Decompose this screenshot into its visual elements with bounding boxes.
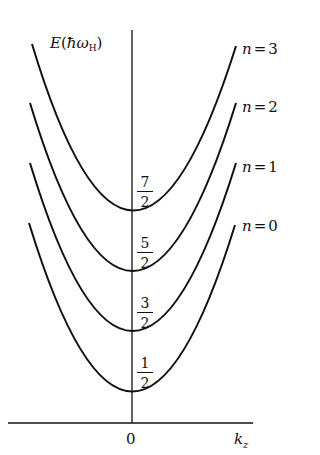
- level-label-n1: n=1: [242, 160, 278, 175]
- equals: =: [254, 217, 267, 235]
- fraction-bar: [137, 372, 153, 373]
- n-value: 1: [268, 158, 278, 176]
- n-symbol: n: [242, 158, 252, 176]
- fraction-numerator: 7: [137, 175, 153, 189]
- energy-value-n1: 32: [137, 296, 153, 330]
- k-symbol: k: [234, 430, 243, 448]
- fraction-numerator: 1: [137, 356, 153, 370]
- fraction-numerator: 5: [137, 236, 153, 250]
- fraction-denominator: 2: [137, 256, 153, 270]
- energy-symbol: E: [50, 34, 61, 52]
- hbar-omega: ħω: [67, 34, 89, 52]
- equals: =: [254, 40, 267, 58]
- fraction-bar: [137, 252, 153, 253]
- kz-axis-label: kz: [234, 432, 248, 450]
- n-symbol: n: [242, 217, 252, 235]
- energy-value-n2: 52: [137, 236, 153, 270]
- fraction-denominator: 2: [137, 316, 153, 330]
- level-label-n3: n=3: [242, 42, 278, 57]
- fraction-bar: [137, 312, 153, 313]
- x-origin-tick: 0: [126, 432, 136, 447]
- fraction-denominator: 2: [137, 376, 153, 390]
- n-value: 0: [268, 217, 278, 235]
- energy-axis-label: E(ħωH): [50, 36, 102, 53]
- equals: =: [254, 98, 267, 116]
- energy-value-n0: 12: [137, 356, 153, 390]
- fraction-numerator: 3: [137, 296, 153, 310]
- fraction-bar: [137, 191, 153, 192]
- omega-subscript: H: [89, 43, 97, 53]
- equals: =: [254, 158, 267, 176]
- energy-value-n3: 72: [137, 175, 153, 209]
- n-symbol: n: [242, 40, 252, 58]
- n-symbol: n: [242, 98, 252, 116]
- n-value: 3: [268, 40, 278, 58]
- k-subscript: z: [243, 439, 248, 450]
- level-label-n0: n=0: [242, 219, 278, 234]
- n-value: 2: [268, 98, 278, 116]
- paren-close: ): [97, 34, 103, 52]
- level-label-n2: n=2: [242, 100, 278, 115]
- fraction-denominator: 2: [137, 195, 153, 209]
